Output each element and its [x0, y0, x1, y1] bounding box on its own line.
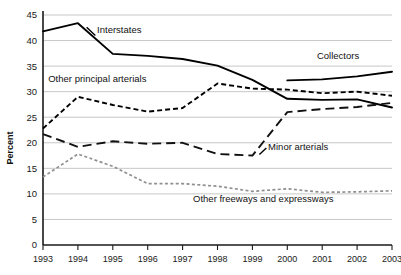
- series-line-interstates: [43, 23, 392, 107]
- y-tick-label: 10: [26, 188, 37, 199]
- series-label-other-freeways-and-expressways: Other freeways and expressways: [193, 193, 334, 204]
- y-tick-label: 0: [32, 239, 37, 250]
- annotation-leader-line: [259, 148, 266, 155]
- annotation-leader-lines: [87, 27, 267, 154]
- line-chart: 051015202530354045 199319941995199619971…: [0, 0, 401, 275]
- y-tick-label: 20: [26, 137, 37, 148]
- series-line-minor-arterials: [43, 103, 392, 156]
- x-tick-label: 1994: [68, 254, 88, 264]
- y-tick-label: 30: [26, 86, 37, 97]
- chart-canvas: 051015202530354045 199319941995199619971…: [0, 0, 401, 275]
- x-tick-label: 2000: [277, 254, 297, 264]
- x-tick-label: 1993: [33, 254, 53, 264]
- x-tick-label: 2002: [347, 254, 367, 264]
- y-tick-label: 45: [26, 9, 37, 20]
- series-annotations: InterstatesOther principal arterialsMino…: [48, 24, 359, 204]
- y-axis-title: Percent: [5, 131, 15, 164]
- x-tick-label: 1998: [207, 254, 227, 264]
- series-line-other-freeways-and-expressways: [43, 154, 392, 192]
- y-tick-label: 5: [32, 214, 37, 225]
- series-line-collectors: [287, 72, 392, 81]
- gridlines: [43, 15, 392, 219]
- axes: [43, 11, 392, 245]
- x-tick-label: 1995: [103, 254, 123, 264]
- x-tick-label: 2001: [312, 254, 332, 264]
- y-tick-label: 35: [26, 61, 37, 72]
- series-lines: [43, 23, 392, 192]
- x-tick-labels: 1993199419951996199719981999200020012002…: [33, 254, 401, 264]
- series-label-minor-arterials: Minor arterials: [268, 141, 328, 152]
- series-label-collectors: Collectors: [317, 50, 359, 61]
- y-tick-label: 15: [26, 163, 37, 174]
- y-tick-label: 25: [26, 112, 37, 123]
- x-tick-label: 1999: [242, 254, 262, 264]
- y-tick-labels: 051015202530354045: [26, 9, 37, 250]
- x-tick-label: 2003: [382, 254, 401, 264]
- y-tick-label: 40: [26, 35, 37, 46]
- x-tick-label: 1997: [173, 254, 193, 264]
- series-label-interstates: Interstates: [97, 24, 142, 35]
- series-line-other-principal-arterials: [43, 83, 392, 128]
- x-tick-label: 1996: [138, 254, 158, 264]
- series-label-other-principal-arterials: Other principal arterials: [48, 73, 146, 84]
